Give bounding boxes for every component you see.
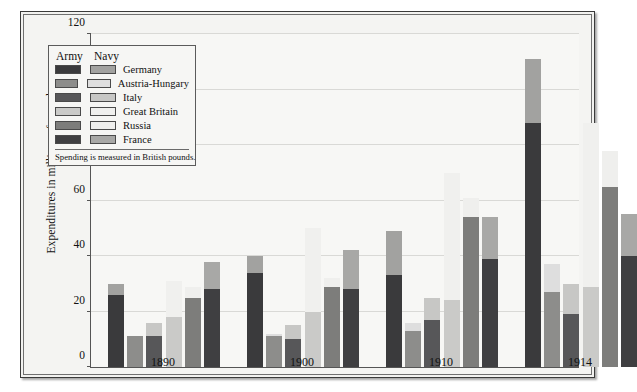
bar-segment-navy xyxy=(463,198,479,217)
bar-segment-navy xyxy=(621,214,637,256)
y-axis-tick-mark xyxy=(87,311,91,312)
legend-headers: Army Navy xyxy=(55,50,189,62)
x-axis-label-1890: 1890 xyxy=(151,355,175,370)
bar-segment-navy xyxy=(324,278,340,286)
bar-segment-army xyxy=(343,289,359,367)
y-axis-tick-mark xyxy=(87,33,91,34)
bar-segment-army xyxy=(185,298,201,367)
legend-swatch-navy-icon xyxy=(90,135,116,144)
bar-russia-1900 xyxy=(324,278,340,367)
legend-note: Spending is measured in British pounds. xyxy=(55,149,189,163)
x-axis-label-1910: 1910 xyxy=(429,355,453,370)
legend-country-label: Germany xyxy=(123,64,162,75)
bar-segment-navy xyxy=(343,250,359,289)
legend-item-russia: Russia xyxy=(55,119,189,132)
bar-austria-hungary-1910 xyxy=(405,323,421,367)
legend-country-label: France xyxy=(123,134,152,145)
legend-swatch-navy-icon xyxy=(90,65,116,74)
bar-segment-army xyxy=(127,336,143,367)
bar-austria-hungary-1900 xyxy=(266,334,282,367)
legend-swatch-navy-icon xyxy=(90,107,116,116)
chart-legend: Army Navy GermanyAustria-HungaryItalyGre… xyxy=(48,45,196,166)
legend-rows: GermanyAustria-HungaryItalyGreat Britain… xyxy=(55,63,189,146)
bar-segment-navy xyxy=(482,217,498,259)
bar-segment-navy xyxy=(405,323,421,331)
legend-item-germany: Germany xyxy=(55,63,189,76)
bar-segment-army xyxy=(621,256,637,367)
bar-germany-1900 xyxy=(247,256,263,367)
bar-segment-navy xyxy=(305,228,321,311)
x-axis-label-1914: 1914 xyxy=(568,355,592,370)
bar-france-1890 xyxy=(204,262,220,367)
bar-great-britain-1910 xyxy=(444,173,460,367)
bar-france-1900 xyxy=(343,250,359,367)
bar-segment-navy xyxy=(602,151,618,187)
bar-segment-army xyxy=(602,187,618,367)
legend-country-label: Italy xyxy=(123,92,142,103)
bar-segment-navy xyxy=(247,256,263,273)
gridline xyxy=(91,255,579,256)
bar-segment-army xyxy=(247,273,263,367)
legend-swatch-army-icon xyxy=(55,93,81,102)
bar-segment-navy xyxy=(386,231,402,275)
figure-inner-border: Expenditures in millions of pounds 02040… xyxy=(23,14,592,375)
bar-france-1914 xyxy=(621,214,637,367)
bar-segment-army xyxy=(463,217,479,367)
y-axis-tick-label: 120 xyxy=(68,16,85,28)
bar-segment-army xyxy=(266,336,282,367)
bar-segment-navy xyxy=(204,262,220,290)
bar-segment-navy xyxy=(185,287,201,298)
bar-france-1910 xyxy=(482,217,498,367)
bar-segment-navy xyxy=(563,284,579,315)
bar-germany-1910 xyxy=(386,231,402,367)
figure-frame: Expenditures in millions of pounds 02040… xyxy=(20,11,595,378)
legend-country-label: Austria-Hungary xyxy=(118,78,189,89)
bar-segment-navy xyxy=(266,334,282,337)
bar-segment-army xyxy=(525,123,541,367)
bar-segment-army xyxy=(386,275,402,367)
legend-swatch-army-icon xyxy=(55,79,78,88)
bar-segment-navy xyxy=(166,281,182,317)
bar-germany-1914 xyxy=(525,59,541,367)
legend-swatch-navy-icon xyxy=(90,121,116,130)
x-axis-label-1900: 1900 xyxy=(290,355,314,370)
bar-segment-navy xyxy=(544,264,560,292)
bar-segment-army xyxy=(204,289,220,367)
y-axis-tick-label: 0 xyxy=(79,349,85,361)
y-axis-tick-label: 20 xyxy=(74,294,86,306)
legend-swatch-army-icon xyxy=(55,107,81,116)
bar-segment-army xyxy=(482,259,498,367)
bar-segment-army xyxy=(544,292,560,367)
y-axis-tick-label: 60 xyxy=(74,183,86,195)
bar-segment-navy xyxy=(583,123,599,287)
y-axis-tick-label: 40 xyxy=(74,238,86,250)
legend-item-france: France xyxy=(55,133,189,146)
legend-item-italy: Italy xyxy=(55,91,189,104)
y-axis-tick-mark xyxy=(87,255,91,256)
legend-item-austria-hungary: Austria-Hungary xyxy=(55,77,189,90)
bar-great-britain-1914 xyxy=(583,123,599,367)
bar-germany-1890 xyxy=(108,284,124,367)
bar-segment-navy xyxy=(444,173,460,301)
bar-segment-navy xyxy=(424,298,440,320)
bar-segment-navy xyxy=(285,325,301,339)
bar-segment-army xyxy=(324,287,340,367)
bar-segment-navy xyxy=(525,59,541,123)
bar-austria-hungary-1914 xyxy=(544,264,560,367)
bar-russia-1914 xyxy=(602,151,618,367)
y-axis-tick-mark xyxy=(87,200,91,201)
bar-russia-1910 xyxy=(463,198,479,367)
legend-swatch-army-icon xyxy=(55,121,81,130)
bar-austria-hungary-1890 xyxy=(127,336,143,367)
bar-russia-1890 xyxy=(185,287,201,367)
y-axis-tick-mark xyxy=(87,366,91,367)
bar-segment-army xyxy=(405,331,421,367)
bar-segment-navy xyxy=(146,323,162,337)
gridline xyxy=(91,200,579,201)
bar-segment-army xyxy=(108,295,124,367)
legend-header-navy: Navy xyxy=(94,50,134,62)
legend-swatch-navy-icon xyxy=(90,93,116,102)
gridline xyxy=(91,33,579,34)
legend-item-great-britain: Great Britain xyxy=(55,105,189,118)
legend-swatch-army-icon xyxy=(55,65,81,74)
